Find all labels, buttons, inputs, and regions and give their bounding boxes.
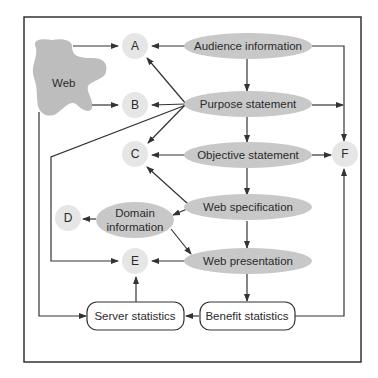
edge-benefit-f [295, 169, 344, 316]
oval-presentation-label: Web presentation [203, 255, 293, 267]
oval-purpose-label: Purpose statement [200, 98, 297, 110]
edge-purpose-b [152, 104, 186, 105]
oval-domain-label-line2: information [107, 221, 164, 233]
oval-audience-label: Audience information [194, 40, 302, 52]
edge-audience-f [312, 46, 344, 141]
circle-f: F [332, 141, 358, 167]
oval-domain-label-line1: Domain [115, 207, 155, 219]
box-benefit-statistics: Benefit statistics [200, 302, 295, 330]
circle-d: D [55, 205, 81, 231]
oval-objective-label: Objective statement [197, 149, 299, 161]
circle-b-label: B [131, 98, 139, 112]
circle-c: C [122, 141, 148, 167]
box-benefit-label: Benefit statistics [205, 310, 288, 322]
circle-a: A [122, 33, 148, 59]
circle-e: E [122, 248, 148, 274]
flow-diagram: Web [0, 0, 378, 378]
edge-spec-domain [173, 209, 187, 215]
circle-c-label: C [131, 147, 140, 161]
oval-audience: Audience information [184, 33, 312, 59]
oval-objective: Objective statement [184, 142, 312, 168]
web-label: Web [52, 77, 75, 89]
box-server-label: Server statistics [94, 310, 175, 322]
circle-a-label: A [131, 39, 139, 53]
oval-specification: Web specification [184, 194, 312, 220]
box-server-statistics: Server statistics [87, 302, 184, 330]
edge-purpose-c [148, 104, 186, 143]
edge-purpose-e [51, 105, 186, 261]
circle-f-label: F [341, 147, 348, 161]
circle-d-label: D [64, 211, 73, 225]
edge-purpose-a [147, 58, 186, 104]
oval-specification-label: Web specification [203, 201, 293, 213]
circle-e-label: E [131, 254, 139, 268]
circle-b: B [122, 92, 148, 118]
oval-domain: Domain information [96, 202, 174, 238]
oval-purpose: Purpose statement [184, 91, 312, 117]
edge-domain-presentation [171, 229, 191, 254]
edge-spec-c [147, 167, 188, 204]
oval-presentation: Web presentation [184, 248, 312, 274]
